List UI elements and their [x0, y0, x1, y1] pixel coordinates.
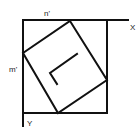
label-n-prime: n': [44, 9, 50, 18]
rotated-square: [23, 21, 107, 113]
label-y-axis: Y: [27, 119, 33, 128]
label-m-prime: m': [9, 65, 18, 74]
label-x-axis: X: [130, 23, 136, 32]
l-shape-marker: [50, 54, 77, 84]
diagram-canvas: n' m' X Y: [0, 0, 139, 132]
